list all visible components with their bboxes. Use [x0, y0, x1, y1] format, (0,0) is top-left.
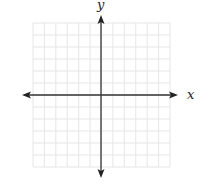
y-axis-label: y — [96, 0, 105, 12]
y-axis — [98, 15, 105, 178]
x-axis-label: x — [187, 87, 195, 102]
coordinate-plane: x y — [0, 0, 211, 184]
x-axis — [22, 92, 178, 99]
